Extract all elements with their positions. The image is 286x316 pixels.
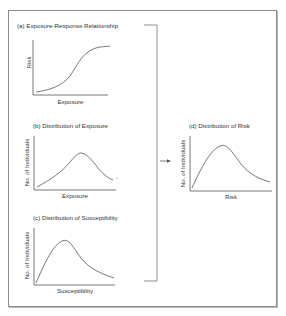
panel-c-curve	[36, 240, 114, 283]
panel-c-axes	[34, 228, 115, 285]
bracket-connector	[144, 25, 171, 281]
panel-c-xlabel: Susceptibility	[34, 287, 116, 294]
panel-b-curve	[37, 153, 113, 187]
panel-c-title: (c) Distribution of Susceptibility	[33, 214, 118, 221]
panel-a-plot	[33, 40, 110, 95]
bracket-line	[144, 25, 157, 281]
panel-b-plot	[34, 136, 118, 190]
panel-a-curve	[36, 46, 110, 92]
panel-c-ylabel: No. of Individuals	[23, 226, 30, 286]
panel-b-title: (b) Distribution of Exposure	[33, 122, 108, 129]
diagram-canvas	[0, 0, 286, 316]
panel-d-plot	[190, 136, 272, 191]
panel-d-ylabel: No. of Individuals	[179, 134, 186, 194]
panel-d-curve	[192, 145, 270, 188]
panel-d-title: (d) Distribution of Risk	[189, 122, 250, 129]
panel-d-axes	[190, 136, 272, 191]
panel-d-xlabel: Risk	[190, 193, 272, 200]
panel-b-ylabel: No. of Individuals	[23, 133, 30, 193]
panel-a-title: (a) Exposure-Response Relationship	[17, 22, 118, 29]
panel-b-dot	[117, 178, 118, 179]
panel-a-xlabel: Exposure	[33, 98, 108, 105]
panel-c-plot	[34, 228, 115, 285]
panel-a-ylabel: Risk	[25, 43, 32, 83]
arrow-head-icon	[167, 159, 171, 162]
panel-b-xlabel: Exposure	[34, 192, 116, 199]
